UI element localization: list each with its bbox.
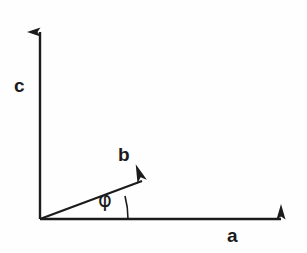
arc-icon — [125, 196, 128, 219]
angle-phi-label: φ — [98, 190, 112, 211]
vector-b-label: b — [118, 145, 130, 164]
vector-diagram-figure: c a b φ — [0, 0, 307, 253]
horizontal-axis-label: a — [227, 226, 238, 245]
diagram-canvas — [0, 0, 307, 253]
vertical-axis-label: c — [14, 76, 25, 95]
